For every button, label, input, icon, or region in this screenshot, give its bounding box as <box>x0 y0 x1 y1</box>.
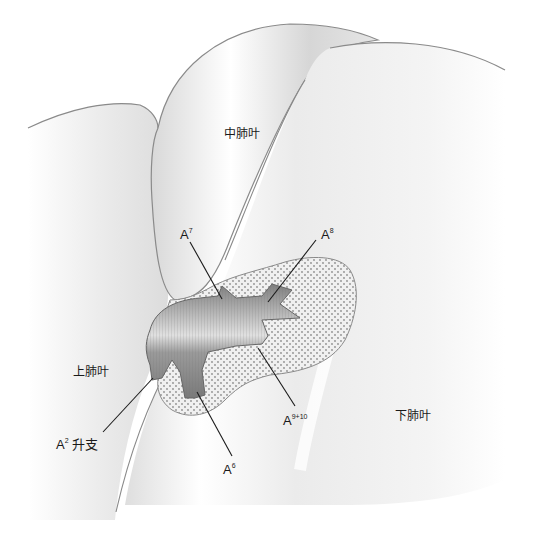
label-a8: A8 <box>321 228 334 241</box>
label-a6: A6 <box>223 463 236 476</box>
label-middle-lobe: 中肺叶 <box>224 128 260 140</box>
label-a7: A7 <box>180 228 193 241</box>
label-a2-ascending-branch: A2 升支 <box>56 438 98 451</box>
label-a9-10: A9+10 <box>283 414 307 427</box>
label-lower-lobe: 下肺叶 <box>395 410 431 422</box>
lung-artery-diagram: 中肺叶 上肺叶 下肺叶 A7 A8 A9+10 A6 A2 升支 <box>0 0 543 548</box>
label-upper-lobe: 上肺叶 <box>73 366 109 378</box>
